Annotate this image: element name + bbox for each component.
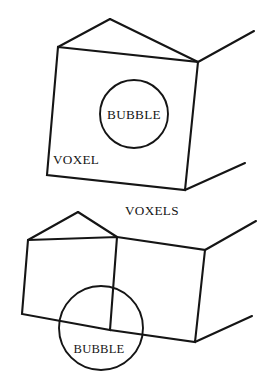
- two-voxel-group: BUBBLE: [22, 212, 256, 370]
- bubble-label-bottom: BUBBLE: [74, 342, 125, 356]
- bubble-label-top: BUBBLE: [107, 107, 161, 122]
- voxel-front-face-left: [22, 237, 117, 330]
- voxel-front-face-right: [110, 237, 205, 342]
- voxels-top-rear-middle-edge: [78, 212, 117, 237]
- voxel-top-rear-right-edge: [110, 19, 198, 62]
- voxel-bubble-figure: BUBBLE VOXEL VOXELS BUBBLE: [0, 0, 260, 381]
- voxels-top-rear-left-edge: [28, 212, 78, 240]
- voxel-bottom-right-receding-edge: [185, 163, 245, 190]
- single-voxel-group: BUBBLE VOXEL: [47, 19, 254, 190]
- voxels-top-right-receding-edge: [205, 221, 256, 250]
- voxels-label: VOXELS: [125, 203, 179, 218]
- voxel-label: VOXEL: [53, 152, 99, 167]
- voxel-top-rear-left-edge: [58, 19, 110, 47]
- voxels-bottom-right-receding-edge: [195, 316, 252, 342]
- diagram-canvas: BUBBLE VOXEL VOXELS BUBBLE: [0, 0, 260, 381]
- voxel-top-right-receding-edge: [198, 31, 254, 62]
